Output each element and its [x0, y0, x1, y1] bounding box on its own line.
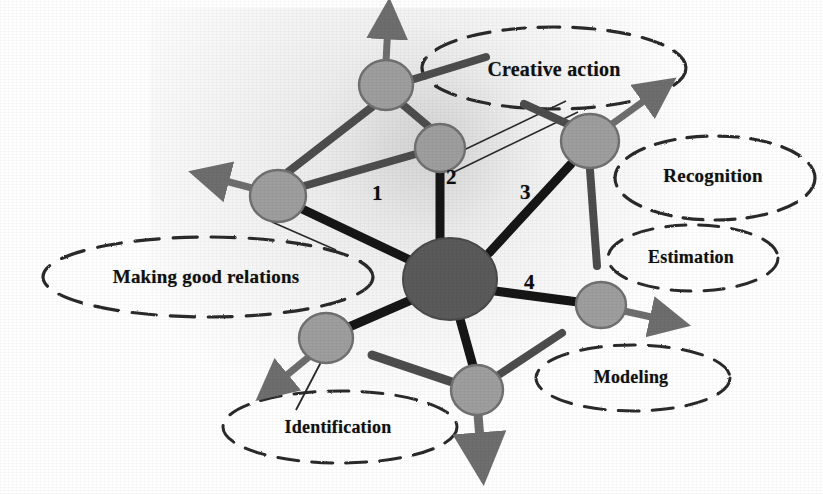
arrow-right-from-lower-right-node — [624, 311, 665, 320]
spoke-number-1: 1 — [372, 181, 383, 206]
node-left[interactable] — [250, 170, 306, 222]
spoke-number-2: 2 — [446, 165, 457, 190]
arrow-left-from-left-node — [214, 178, 252, 188]
spoke-bottom-left-diagonal — [372, 355, 452, 382]
callout-ellipse-making-good-relations — [43, 237, 373, 317]
node-lower-left[interactable] — [299, 313, 353, 363]
callout-ellipse-identification — [223, 391, 457, 463]
spoke-hub-to-bottom — [460, 319, 473, 366]
node-upper-right[interactable] — [561, 114, 619, 168]
spoke-left-to-top — [288, 107, 372, 172]
node-bottom[interactable] — [451, 365, 503, 415]
arrow-downleft-from-lower-left-node — [276, 356, 310, 384]
arrow-down-from-bottom-node — [478, 414, 481, 452]
network-diagram — [0, 0, 823, 494]
hub-node[interactable] — [403, 238, 497, 320]
spoke-hub-to-lower-right — [495, 291, 578, 302]
node-lower-right[interactable] — [576, 282, 626, 328]
spoke-number-3: 3 — [520, 180, 531, 205]
spoke-upper-right-vertical — [590, 170, 597, 266]
spoke-hub-to-lower-left — [349, 300, 411, 327]
spoke-top-to-upper-mid — [402, 104, 428, 126]
spoke-upper-right-branch — [524, 104, 572, 126]
spoke-number-4: 4 — [524, 270, 535, 295]
callout-ellipse-recognition — [615, 136, 815, 220]
callout-ellipse-modeling — [536, 345, 730, 411]
arrow-up-from-top-node — [386, 24, 388, 62]
callout-ellipse-estimation — [608, 225, 778, 291]
spoke-left-to-upper-mid — [304, 154, 416, 186]
node-top[interactable] — [359, 60, 413, 110]
spoke-hub-to-left — [300, 208, 412, 261]
spoke-bottom-to-lower-right — [497, 333, 562, 376]
spoke-hub-to-upper-right — [489, 164, 571, 253]
node-upper-middle[interactable] — [415, 124, 465, 172]
arrow-upright-from-right-node — [612, 93, 655, 124]
diagram-canvas: 1 2 3 4 Creative action Recognition Esti… — [0, 0, 823, 494]
